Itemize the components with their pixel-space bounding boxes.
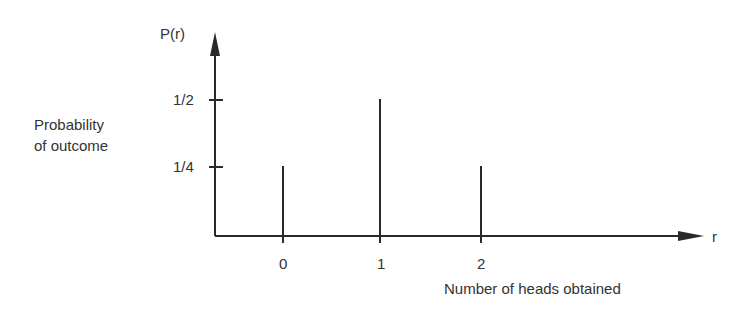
y-axis-arrow-icon [210, 32, 220, 56]
x-tick-label-0: 0 [279, 256, 287, 271]
x-tick-label-2: 2 [477, 256, 485, 271]
x-axis-symbol: r [712, 229, 717, 244]
x-axis-title: Number of heads obtained [444, 281, 621, 296]
y-tick-label-quarter: 1/4 [173, 159, 194, 174]
y-axis-title-line1: Probability [34, 117, 104, 132]
chart-canvas [0, 0, 729, 313]
y-tick-label-half: 1/2 [173, 92, 194, 107]
x-tick-label-1: 1 [377, 256, 385, 271]
y-axis-title-line2: of outcome [34, 138, 108, 153]
x-axis-arrow-icon [678, 231, 704, 241]
y-axis-symbol: P(r) [160, 26, 185, 41]
